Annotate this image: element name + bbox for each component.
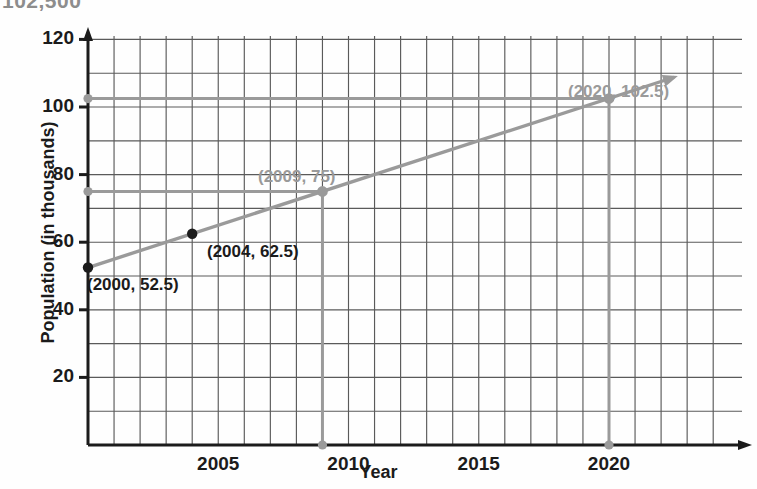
x-axis-arrow: [738, 440, 752, 450]
data-point-filled: [83, 262, 93, 272]
chart-canvas: [0, 0, 757, 489]
trend-line: [88, 77, 674, 267]
annotation-point-2004: (2004, 62.5): [207, 242, 299, 262]
x-axis-title: Year: [0, 462, 757, 483]
data-point-open: [318, 187, 327, 196]
data-point-filled: [187, 229, 197, 239]
y-axis-title: Population (in thousands): [38, 93, 59, 373]
axis-projection-dot-x: [318, 440, 327, 449]
axis-projection-dot-y: [83, 94, 92, 103]
annotation-point-2000: (2000, 52.5): [87, 275, 179, 295]
annotation-point-2009: (2009, 75): [258, 167, 336, 187]
y-tick-label: 120: [12, 27, 74, 49]
annotation-point-2020: (2020, 102.5): [568, 82, 669, 102]
trend-line-series: [88, 75, 678, 268]
chart-page: 102,500 20406080100120 2005201020152020 …: [0, 0, 757, 489]
axis-projection-dot-x: [604, 440, 613, 449]
axis-projection-dot-y: [83, 187, 92, 196]
